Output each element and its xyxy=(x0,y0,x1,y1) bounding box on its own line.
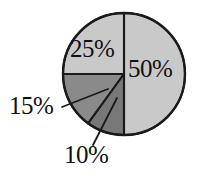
pie-label-25: 25% xyxy=(70,36,114,61)
pie-label-15: 15% xyxy=(9,93,53,118)
pie-label-10: 10% xyxy=(64,142,108,167)
pie-label-50: 50% xyxy=(128,56,172,81)
pie-chart-figure: 50% 25% 15% 10% xyxy=(0,0,200,181)
